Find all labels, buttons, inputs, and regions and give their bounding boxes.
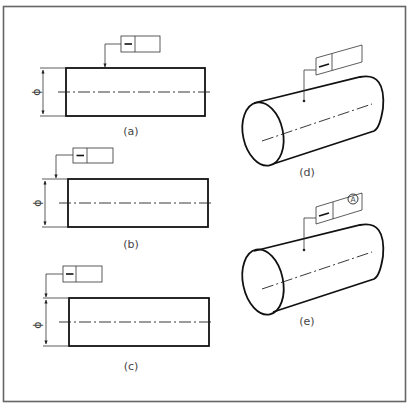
leader-line: [56, 155, 73, 178]
diagram-stage: ϕ (a) ϕ (b) ϕ: [0, 0, 411, 410]
straightness-symbol-icon: [319, 213, 329, 216]
feature-control-frame: [63, 266, 102, 282]
panel-label: (c): [124, 360, 139, 373]
feature-control-frame: [121, 36, 160, 52]
cylinder-isometric: [237, 224, 384, 318]
panel-label: (d): [299, 166, 315, 179]
diameter-symbol: ϕ: [31, 321, 44, 328]
feature-control-frame: A: [316, 193, 362, 224]
straightness-symbol-icon: [319, 64, 329, 67]
panel-label: (a): [123, 125, 138, 138]
panel-a: ϕ (a): [30, 36, 212, 138]
diameter-symbol: ϕ: [30, 88, 43, 95]
panel-label: (b): [123, 238, 139, 251]
panel-d: (d): [237, 45, 384, 179]
feature-control-frame: [316, 45, 362, 75]
leader-dot: [303, 249, 306, 252]
leader-dot: [303, 100, 306, 103]
axis-line: [262, 104, 372, 141]
diagram-canvas: ϕ (a) ϕ (b) ϕ: [0, 0, 411, 410]
panel-e: A (e): [237, 193, 384, 328]
cylinder-isometric: [237, 76, 384, 169]
leader-line: [105, 44, 121, 67]
feature-control-frame: [73, 148, 113, 163]
leader-line: [304, 218, 316, 249]
leader-line: [46, 274, 63, 297]
leader-line: [304, 70, 316, 100]
panel-b: ϕ (b): [31, 148, 214, 251]
diameter-symbol: ϕ: [31, 199, 44, 206]
panel-label: (e): [299, 315, 314, 328]
figure-border: [4, 7, 406, 402]
axis-line: [262, 252, 372, 289]
modifier-letter: A: [350, 195, 356, 204]
panel-c: ϕ (c): [31, 266, 213, 373]
